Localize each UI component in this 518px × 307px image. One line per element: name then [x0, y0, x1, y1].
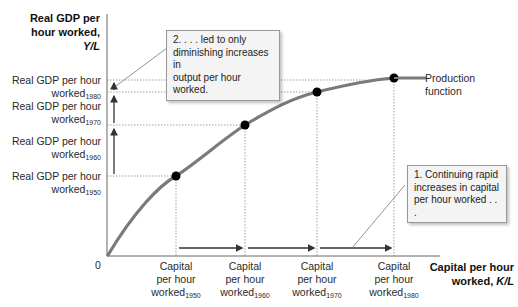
point-1950	[172, 172, 181, 181]
x-tick-1960-sub: 1960	[254, 292, 270, 299]
y-tick-1950: Real GDP per hour worked1950	[0, 170, 101, 196]
x-tick-1980-sub: 1980	[403, 292, 419, 299]
curve-label-line1: Production	[425, 72, 475, 85]
x-tick-1970-line3: worked	[292, 286, 326, 298]
callout-one-line1: 1. Continuing rapid	[414, 169, 500, 182]
callout-one-line3: per hour worked . . .	[414, 194, 500, 219]
y-tick-1970-line1: Real GDP per hour	[0, 100, 101, 113]
y-axis-title-line1: Real GDP per	[2, 11, 100, 25]
x-axis-title: Capital per hour worked, K/L	[418, 260, 514, 288]
y-tick-1970: Real GDP per hour worked1970	[0, 100, 101, 126]
x-tick-1970-line2: per hour	[287, 273, 347, 286]
y-tick-1950-line2: worked	[52, 183, 86, 195]
x-tick-1950-line2: per hour	[146, 273, 206, 286]
y-axis-title-line2: hour worked,	[2, 25, 100, 39]
x-tick-1950: Capital per hour worked1950	[146, 260, 206, 299]
y-tick-1970-line2: worked	[52, 113, 86, 125]
y-axis-title-line3: Y/L	[2, 39, 100, 53]
y-axis-title: Real GDP per hour worked, Y/L	[2, 11, 100, 53]
x-tick-1950-line1: Capital	[146, 260, 206, 273]
callout-one-line2: increases in capital	[414, 182, 500, 195]
callout-two-line2: diminishing increases in	[173, 47, 273, 72]
y-tick-1960: Real GDP per hour worked1960	[0, 135, 101, 161]
x-tick-1980: Capital per hour worked1980	[364, 260, 424, 299]
x-tick-1960-line2: per hour	[215, 273, 275, 286]
y-tick-1960-line2: worked	[52, 148, 86, 160]
y-tick-1960-sub: 1960	[85, 154, 101, 161]
x-tick-1960-line3: worked	[220, 286, 254, 298]
x-axis-title-line2: worked,	[452, 275, 494, 287]
production-function-curve	[108, 78, 425, 255]
point-1960	[241, 121, 250, 130]
point-1970	[313, 88, 322, 97]
y-tick-1980-line2: worked	[52, 87, 86, 99]
callout-two-line1: 2. . . . led to only	[173, 34, 273, 47]
y-tick-1980-sub: 1980	[85, 93, 101, 100]
x-tick-1980-line1: Capital	[364, 260, 424, 273]
y-tick-1950-line1: Real GDP per hour	[0, 170, 101, 183]
curve-label-line2: function	[425, 85, 475, 98]
origin-label: 0	[95, 259, 101, 272]
y-tick-1950-sub: 1950	[85, 189, 101, 196]
y-tick-1970-sub: 1970	[85, 119, 101, 126]
x-tick-1980-line2: per hour	[364, 273, 424, 286]
x-axis-title-line1: Capital per hour	[418, 260, 514, 274]
production-function-label: Production function	[425, 72, 475, 98]
x-tick-1980-line3: worked	[369, 286, 403, 298]
callout-capital-increases: 1. Continuing rapid increases in capital…	[407, 165, 507, 223]
callout-diminishing-increases: 2. . . . led to only diminishing increas…	[166, 30, 280, 101]
y-tick-1960-line1: Real GDP per hour	[0, 135, 101, 148]
x-tick-1970-sub: 1970	[326, 292, 342, 299]
x-tick-1950-line3: worked	[151, 286, 185, 298]
x-tick-1950-sub: 1950	[185, 292, 201, 299]
y-tick-1980: Real GDP per hour worked1980	[0, 74, 101, 100]
x-axis-title-italic: K/L	[496, 275, 514, 287]
callout-two-line3: output per hour worked.	[173, 72, 273, 97]
callout-one-leader	[352, 185, 405, 248]
x-tick-1960-line1: Capital	[215, 260, 275, 273]
x-tick-1970: Capital per hour worked1970	[287, 260, 347, 299]
x-tick-1970-line1: Capital	[287, 260, 347, 273]
y-tick-1980-line1: Real GDP per hour	[0, 74, 101, 87]
x-tick-1960: Capital per hour worked1960	[215, 260, 275, 299]
